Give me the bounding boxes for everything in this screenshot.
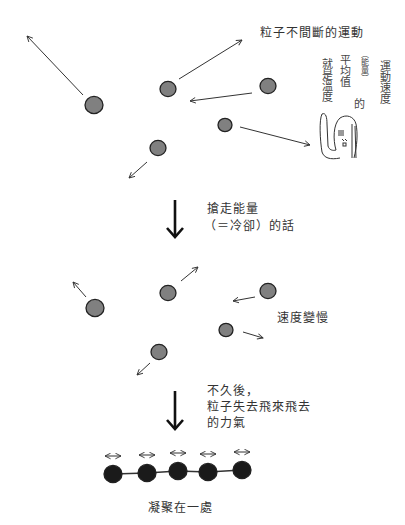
motion-arrow-icon [233, 297, 255, 301]
particle [218, 118, 232, 131]
particle [138, 464, 156, 481]
motion-arrow-icon [137, 363, 150, 375]
motion-arrow-icon [240, 127, 310, 145]
motion-arrow-icon [243, 332, 263, 338]
motion-arrow-icon [27, 36, 83, 95]
motion-arrow-icon [179, 40, 242, 79]
cooling-caption-line1: 搶走能量 [207, 201, 259, 218]
motion-arrow-icon [190, 93, 252, 101]
particle [160, 81, 176, 96]
moving-caption: 粒子不間斷的運動 [260, 25, 364, 42]
particle [233, 461, 251, 478]
particle [104, 465, 122, 482]
particle [219, 323, 233, 336]
slowing-particles-group [73, 267, 276, 375]
motion-arrow-icon [129, 162, 147, 178]
particle [85, 96, 103, 113]
condensed-particles-group [104, 452, 251, 483]
particle [150, 140, 166, 155]
slowing-caption: 速度變慢 [277, 310, 329, 327]
motion-arrow-icon [73, 282, 86, 297]
person-illustration-icon [320, 114, 357, 159]
motion-arrow-icon [181, 267, 198, 281]
annotation-col-4: 平均值 [338, 54, 351, 87]
condense-caption-line2: 粒子失去飛來飛去 [207, 399, 311, 416]
annotation-col-2: 的 [352, 98, 365, 109]
particle [86, 299, 104, 316]
particle [260, 78, 276, 93]
cooling-caption-line2: （＝冷卻）的話 [204, 218, 295, 235]
cooling-down-arrow-icon [167, 200, 183, 237]
particle [151, 344, 167, 359]
condensed-caption: 凝聚在一處 [148, 500, 213, 517]
annotation-col-1: 運動速度 [378, 60, 391, 104]
particle [260, 283, 276, 298]
moving-particles-group [27, 36, 310, 178]
condense-caption-line3: 的力氣 [207, 415, 246, 432]
annotation-col-5: 就是溫度 [320, 58, 333, 102]
condense-down-arrow-icon [167, 391, 183, 429]
condense-caption-line1: 不久後， [207, 383, 259, 400]
particle [160, 285, 176, 300]
particle [169, 462, 187, 479]
annotation-col-3: （能量） [357, 50, 370, 82]
particle [199, 463, 217, 480]
